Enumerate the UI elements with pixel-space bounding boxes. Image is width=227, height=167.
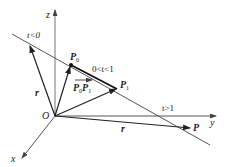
region-t-gt1: t>1 [162, 103, 174, 113]
vector-r-bottom-label: r [121, 123, 125, 134]
point-p0-label: P0 [70, 51, 79, 63]
origin-label: O [42, 110, 49, 121]
x-axis [22, 116, 55, 158]
line-parametric-diagram: z y x O t<0 0<t<1 t>1 P0 P1 P r r P0P1 [0, 0, 227, 167]
x-axis-label: x [10, 153, 16, 164]
point-p1-label: P1 [120, 79, 129, 91]
svg-text:P0P1: P0P1 [73, 82, 91, 94]
z-axis-label: z [45, 9, 50, 20]
y-axis-label: y [209, 117, 215, 128]
region-t-mid: 0<t<1 [92, 64, 114, 74]
vector-r-left-label: r [35, 87, 39, 98]
parametric-line [12, 34, 210, 145]
point-p-label: P [193, 122, 200, 133]
vector-o-p0 [55, 67, 70, 116]
point-p0-dot [69, 63, 73, 67]
vector-o-p1 [55, 89, 116, 116]
vector-p0p1-label: P0P1 [73, 80, 92, 94]
region-t-neg: t<0 [27, 30, 41, 40]
